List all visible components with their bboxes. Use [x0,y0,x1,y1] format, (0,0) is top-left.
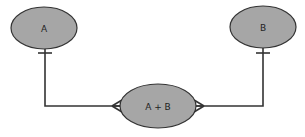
entity-a-plus-b[interactable]: A + B [120,84,196,128]
entity-b[interactable]: B [230,6,296,48]
er-diagram: A B A + B [0,0,305,137]
connector-line-a-ab [45,48,120,106]
entity-b-label: B [260,23,266,33]
entity-a-label: A [41,24,48,34]
entity-a-plus-b-label: A + B [145,102,171,112]
relationship-b-ab[interactable] [194,48,270,112]
connector-line-b-ab [196,48,263,106]
relationship-a-ab[interactable] [38,48,122,112]
entity-a[interactable]: A [11,7,77,49]
